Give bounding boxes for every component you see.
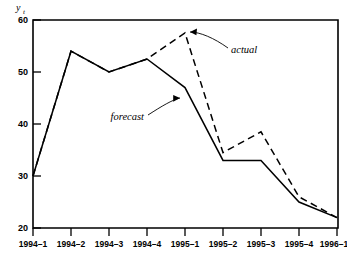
y-tick-labels: 60 50 40 30 20: [18, 15, 28, 233]
plot-frame: [33, 20, 338, 228]
x-tick-label-1995-1: 1995–1: [171, 239, 200, 249]
x-tick-label-1994-1: 1994–1: [19, 239, 48, 249]
y-axis-title: y t: [15, 2, 26, 16]
forecast-arrowhead-icon: [173, 95, 180, 102]
y-tick-label-30: 30: [18, 171, 28, 181]
y-tick-label-50: 50: [18, 67, 28, 77]
x-tick-label-1994-3: 1994–3: [95, 239, 124, 249]
y-tick-label-40: 40: [18, 119, 28, 129]
y-tick-label-20: 20: [18, 223, 28, 233]
forecast-annotation: forecast: [111, 95, 180, 122]
x-axis-ticks: [33, 228, 337, 236]
forecast-series-line: [33, 51, 337, 217]
x-tick-label-1995-3: 1995–3: [247, 239, 276, 249]
chart-container: y t 60 50 40 30 20 1994–1 1994–2 1994–3 …: [0, 0, 347, 260]
line-chart-plot: y t 60 50 40 30 20 1994–1 1994–2 1994–3 …: [0, 0, 347, 260]
x-tick-label-1994-4: 1994–4: [133, 239, 162, 249]
y-axis-ticks: [33, 20, 41, 228]
actual-annotation: actual: [190, 29, 257, 55]
x-tick-label-1996-1: 1996–1: [320, 239, 347, 249]
actual-series-line: [33, 33, 337, 218]
y-tick-label-60: 60: [18, 15, 28, 25]
actual-arrowhead-icon: [190, 29, 197, 36]
forecast-annotation-label: forecast: [111, 111, 146, 122]
x-tick-label-1994-2: 1994–2: [57, 239, 86, 249]
actual-annotation-label: actual: [231, 44, 257, 55]
x-tick-label-1995-4: 1995–4: [285, 239, 314, 249]
x-tick-labels: 1994–1 1994–2 1994–3 1994–4 1995–1 1995–…: [19, 239, 347, 249]
y-axis-title-text: y: [15, 2, 21, 13]
x-tick-label-1995-2: 1995–2: [209, 239, 238, 249]
